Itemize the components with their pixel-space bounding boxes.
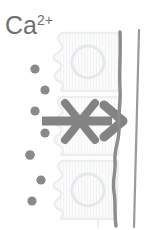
ion-element-symbol: Ca (5, 11, 37, 39)
calcium-transport-diagram: Ca2+ (0, 0, 155, 230)
ion-dot (30, 64, 39, 73)
ion-dot (40, 128, 49, 137)
cell-bottom (54, 161, 118, 228)
ion-dot (27, 196, 36, 205)
ion-dot (40, 85, 49, 94)
ion-dot (30, 106, 39, 115)
ion-dot (36, 175, 45, 184)
ion-dot (25, 150, 35, 160)
calcium-ions (25, 64, 49, 205)
ion-charge-superscript: 2+ (37, 12, 53, 28)
straight-membrane-line (134, 30, 139, 227)
cell-top (54, 33, 120, 91)
cell-body-top (54, 33, 120, 91)
cell-body-bottom (54, 161, 118, 219)
calcium-ion-label: Ca2+ (5, 13, 53, 38)
